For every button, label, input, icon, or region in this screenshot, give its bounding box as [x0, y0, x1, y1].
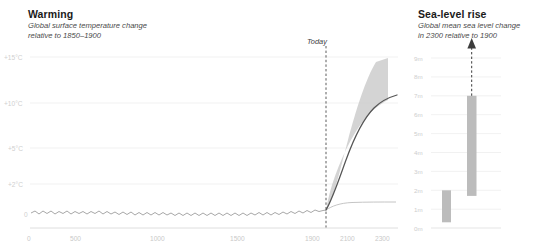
x-tick-label-1900: 1900: [305, 235, 320, 242]
y-tick-label-2: +2°C: [8, 181, 23, 188]
sealevel-bar-high-emissions: [467, 96, 477, 196]
sealevel-y-axis-labels: 9m 8m 7m 6m 5m 4m 3m 2m 1m 0m: [414, 55, 423, 232]
warming-gridlines: [30, 57, 398, 184]
x-tick-label-2100: 2100: [340, 235, 355, 242]
x-tick-label-0: 0: [27, 235, 31, 242]
sealevel-up-arrow-icon: [467, 38, 476, 49]
sealevel-panel: Sea-level rise Global mean sea level cha…: [405, 0, 546, 246]
warming-historical-line: [31, 210, 326, 216]
sealevel-gridlines: [431, 58, 501, 228]
warming-x-axis-labels: 0 500 1000 1500 1900 2100 2300: [27, 235, 390, 242]
sl-tick-label-4m: 4m: [414, 149, 423, 156]
y-tick-label-10: +10°C: [4, 100, 23, 107]
sl-tick-label-1m: 1m: [414, 206, 423, 213]
sl-tick-label-3m: 3m: [414, 168, 423, 175]
sl-tick-label-7m: 7m: [414, 92, 423, 99]
sl-tick-label-6m: 6m: [414, 111, 423, 118]
sl-tick-label-5m: 5m: [414, 130, 423, 137]
warming-chart: +15°C +10°C +5°C +2°C 0 Today 0 500 1000…: [0, 0, 400, 246]
y-tick-label-5: +5°C: [8, 145, 23, 152]
sl-tick-label-9m: 9m: [414, 55, 423, 62]
x-tick-label-1500: 1500: [230, 235, 245, 242]
warming-y-axis-labels: +15°C +10°C +5°C +2°C 0: [4, 54, 28, 218]
x-tick-label-1000: 1000: [150, 235, 165, 242]
x-tick-label-500: 500: [70, 235, 81, 242]
sl-tick-label-0m: 0m: [414, 225, 423, 232]
warming-panel: Warming Global surface temperature chang…: [0, 0, 400, 246]
sl-tick-label-2m: 2m: [414, 187, 423, 194]
x-tick-label-2300: 2300: [375, 235, 390, 242]
warming-low-emissions-line: [326, 202, 396, 210]
today-annotation-label: Today: [307, 37, 328, 46]
sealevel-chart: 9m 8m 7m 6m 5m 4m 3m 2m 1m 0m: [405, 0, 546, 246]
y-tick-label-0: 0: [24, 211, 28, 218]
y-tick-label-15: +15°C: [4, 54, 23, 61]
sealevel-bar-low-emissions: [442, 190, 451, 222]
sl-tick-label-8m: 8m: [414, 73, 423, 80]
